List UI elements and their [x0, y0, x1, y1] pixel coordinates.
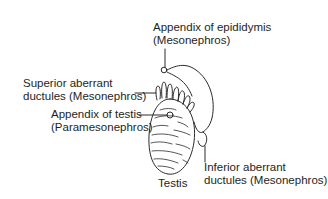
label-appendix-testis: Appendix of testis (Paramesonephros) [51, 108, 153, 134]
label-superior-aberrant-ductules: Superior aberrant ductules (Mesonephros) [23, 77, 146, 103]
appendix-epididymis-icon [161, 67, 167, 73]
ductule-loops [156, 82, 194, 112]
label-appendix-epididymis: Appendix of epididymis (Mesonephros) [153, 21, 271, 47]
label-inferior-aberrant-ductules: Inferior aberrant ductules (Mesonephros) [204, 161, 327, 187]
appendix-testis-icon [167, 112, 173, 118]
label-testis: Testis [158, 177, 187, 190]
